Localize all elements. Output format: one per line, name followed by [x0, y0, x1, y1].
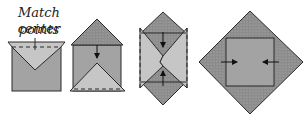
step-1-figure: [8, 38, 65, 91]
caption-line-2: points: [0, 22, 78, 38]
step-2-figure: [70, 19, 125, 91]
step-3-figure: [140, 12, 187, 105]
step-4-figure: [199, 11, 303, 114]
